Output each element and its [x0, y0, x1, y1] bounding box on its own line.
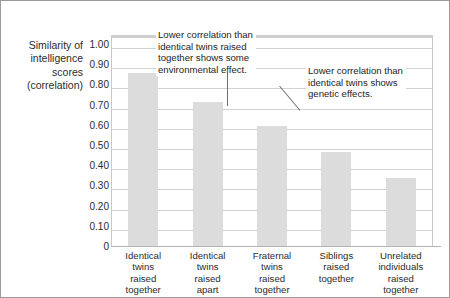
x-axis-line [111, 246, 441, 247]
x-axis-category-line: apart [175, 284, 241, 295]
annotation-line: identical twins raised [158, 41, 253, 53]
x-axis-category-label: Fraternal twins raised together [239, 250, 305, 296]
x-axis-category-line: raised [175, 273, 241, 284]
annotation-leader-line [227, 73, 228, 106]
x-axis-category-line: raised [303, 261, 369, 272]
y-axis-tick-label: 0.10 [81, 222, 109, 232]
x-axis-category-line: together [368, 284, 434, 295]
x-axis-category-line: together [110, 284, 176, 295]
annotation-line: identical twins shows [308, 77, 403, 89]
annotation-line: together shows some [158, 52, 253, 64]
y-axis-tick-label: 0.50 [81, 141, 109, 151]
y-axis-ticks: 1.00 0.90 0.80 0.70 0.60 0.50 0.40 0.30 … [81, 1, 109, 298]
y-axis-title-line: Similarity of [5, 39, 83, 52]
y-axis-tick-label: 0.40 [81, 161, 109, 171]
y-axis-tick-label: 0.80 [81, 80, 109, 90]
bar [193, 102, 223, 247]
x-axis-category-line: Identical [175, 250, 241, 261]
bar [321, 152, 351, 247]
x-axis-category-label: Identical twins raised apart [175, 250, 241, 296]
y-axis-tick-label: 0.70 [81, 101, 109, 111]
x-axis-category-line: Fraternal [239, 250, 305, 261]
x-axis-category-line: together [239, 284, 305, 295]
bar [386, 178, 416, 247]
bar [128, 73, 158, 247]
y-axis-tick-label: 0 [81, 242, 109, 252]
y-axis-title: Similarity of intelligence scores (corre… [5, 39, 83, 93]
y-axis-tick-label: 0.60 [81, 121, 109, 131]
annotation-environmental-effect: Lower correlation than identical twins r… [156, 28, 256, 76]
x-axis-category-line: individuals [368, 261, 434, 272]
x-axis-category-line: twins [175, 261, 241, 272]
x-axis-category-line: raised [239, 273, 305, 284]
x-axis-category-line: twins [110, 261, 176, 272]
x-axis-category-label: Siblings raised together [303, 250, 369, 284]
y-axis-tick-label: 0.20 [81, 202, 109, 212]
x-axis-category-line: Unrelated [368, 250, 434, 261]
x-axis-category-line: twins [239, 261, 305, 272]
y-axis-title-line: (correlation) [5, 79, 83, 92]
x-axis-labels: Identical twins raised together Identica… [111, 250, 433, 298]
annotation-genetic-effects: Lower correlation than identical twins s… [306, 64, 406, 101]
y-axis-title-line: scores [5, 66, 83, 79]
y-axis-tick-label: 0.30 [81, 181, 109, 191]
bar [257, 126, 287, 247]
y-axis-tick-label: 0.90 [81, 60, 109, 70]
y-axis-tick-label: 1.00 [81, 40, 109, 50]
x-axis-category-line: raised [110, 273, 176, 284]
annotation-line: genetic effects. [308, 88, 403, 100]
x-axis-category-line: together [303, 273, 369, 284]
annotation-line: environmental effect. [158, 64, 253, 76]
x-axis-category-label: Unrelated individuals raised together [368, 250, 434, 296]
x-axis-category-line: raised [368, 273, 434, 284]
annotation-line: Lower correlation than [308, 65, 403, 77]
y-axis-title-line: intelligence [5, 52, 83, 65]
annotation-line: Lower correlation than [158, 29, 253, 41]
x-axis-category-line: Siblings [303, 250, 369, 261]
x-axis-category-line: Identical [110, 250, 176, 261]
chart-figure: Similarity of intelligence scores (corre… [0, 0, 450, 298]
x-axis-category-label: Identical twins raised together [110, 250, 176, 296]
